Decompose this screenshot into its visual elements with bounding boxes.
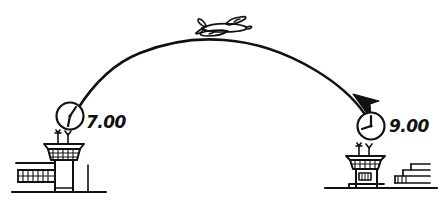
flight-time-diagram: 7.00 9.00 (0, 0, 447, 210)
departure-airport (12, 130, 106, 192)
departure-clock (57, 103, 84, 130)
terminal-building (395, 164, 430, 183)
tower-antenna (356, 143, 372, 155)
terminal-building (16, 163, 55, 182)
arrival-time-label: 9.00 (389, 116, 430, 136)
arrival-airport (325, 143, 437, 188)
tower-observation-deck (44, 144, 84, 160)
flight-path-arc (77, 39, 364, 113)
departure-time-label: 7.00 (86, 112, 127, 132)
tower-observation-deck (346, 156, 385, 169)
arrival-clock (358, 113, 385, 140)
tower-antenna (55, 130, 71, 143)
airplane-icon (196, 17, 252, 36)
tower-shaft (55, 160, 73, 192)
tower-shaft (356, 169, 377, 188)
